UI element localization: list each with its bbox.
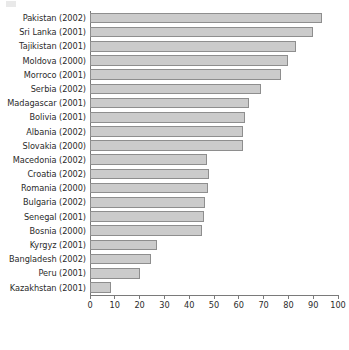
bar-row: Serbia (2002) [0, 82, 349, 96]
bar [90, 84, 261, 95]
bar-row: Pakistan (2002) [0, 11, 349, 25]
bar-track [90, 266, 349, 280]
x-axis-tick-label: 10 [110, 300, 120, 310]
x-axis-tick [114, 295, 115, 299]
bar-track [90, 54, 349, 68]
crop-artifact [6, 1, 16, 7]
bar-track [90, 238, 349, 252]
bar [90, 268, 140, 279]
bar [90, 240, 157, 251]
x-axis-tick-label: 30 [159, 300, 169, 310]
bar [90, 55, 288, 66]
bar-track [90, 139, 349, 153]
category-label: Albania (2002) [0, 125, 86, 139]
x-axis-tick [263, 295, 264, 299]
bar-row: Romania (2000) [0, 181, 349, 195]
x-axis-tick-label: 90 [308, 300, 318, 310]
bar [90, 13, 322, 24]
bar-track [90, 110, 349, 124]
bar-row: Kazakhstan (2001) [0, 281, 349, 295]
bar [90, 98, 249, 109]
x-axis-tick [139, 295, 140, 299]
x-axis-tick [90, 295, 91, 299]
plot-area: Pakistan (2002)Sri Lanka (2001)Tajikista… [0, 11, 349, 295]
x-axis-tick-label: 60 [234, 300, 244, 310]
bar-row: Bosnia (2000) [0, 224, 349, 238]
category-label: Peru (2001) [0, 266, 86, 280]
bar-track [90, 210, 349, 224]
category-label: Tajikistan (2001) [0, 39, 86, 53]
x-axis-tick [189, 295, 190, 299]
bar [90, 282, 111, 293]
category-label: Bangladesh (2002) [0, 252, 86, 266]
bar [90, 225, 202, 236]
bar-track [90, 125, 349, 139]
bar-row: Senegal (2001) [0, 210, 349, 224]
bar [90, 112, 245, 123]
category-label: Serbia (2002) [0, 82, 86, 96]
x-axis-tick [338, 295, 339, 299]
x-axis-tick-label: 40 [184, 300, 194, 310]
bar-row: Madagascar (2001) [0, 96, 349, 110]
bar-chart: Pakistan (2002)Sri Lanka (2001)Tajikista… [0, 0, 349, 350]
bar-row: Tajikistan (2001) [0, 39, 349, 53]
bar [90, 27, 313, 38]
category-label: Kazakhstan (2001) [0, 281, 86, 295]
category-label: Bosnia (2000) [0, 224, 86, 238]
x-axis-tick [214, 295, 215, 299]
x-axis-tick [164, 295, 165, 299]
x-axis-tick-label: 0 [87, 300, 92, 310]
category-label: Morroco (2001) [0, 68, 86, 82]
bar-row: Morroco (2001) [0, 68, 349, 82]
bar-track [90, 167, 349, 181]
bar [90, 41, 296, 52]
bar-row: Moldova (2000) [0, 54, 349, 68]
bar-row: Bangladesh (2002) [0, 252, 349, 266]
bar-row: Sri Lanka (2001) [0, 25, 349, 39]
bar [90, 254, 151, 265]
category-label: Macedonia (2002) [0, 153, 86, 167]
x-axis-tick-label: 80 [283, 300, 293, 310]
bar-track [90, 181, 349, 195]
bar-row: Peru (2001) [0, 266, 349, 280]
bar-row: Albania (2002) [0, 125, 349, 139]
bar [90, 197, 205, 208]
bar-track [90, 39, 349, 53]
category-label: Pakistan (2002) [0, 11, 86, 25]
x-axis-tick [313, 295, 314, 299]
bar [90, 211, 204, 222]
bar [90, 140, 243, 151]
bar-row: Macedonia (2002) [0, 153, 349, 167]
category-label: Romania (2000) [0, 181, 86, 195]
bar-row: Kyrgyz (2001) [0, 238, 349, 252]
category-label: Bolivia (2001) [0, 110, 86, 124]
x-axis-tick [238, 295, 239, 299]
x-axis-tick-label: 20 [134, 300, 144, 310]
category-label: Sri Lanka (2001) [0, 25, 86, 39]
bar-row: Croatia (2002) [0, 167, 349, 181]
category-label: Bulgaria (2002) [0, 195, 86, 209]
category-label: Moldova (2000) [0, 54, 86, 68]
bar-row: Bolivia (2001) [0, 110, 349, 124]
bar-track [90, 252, 349, 266]
category-label: Senegal (2001) [0, 210, 86, 224]
category-label: Madagascar (2001) [0, 96, 86, 110]
category-label: Slovakia (2000) [0, 139, 86, 153]
bar-track [90, 96, 349, 110]
bar [90, 154, 207, 165]
bar-track [90, 195, 349, 209]
bar-track [90, 68, 349, 82]
bar-track [90, 224, 349, 238]
x-axis-tick [288, 295, 289, 299]
bar-track [90, 25, 349, 39]
category-label: Kyrgyz (2001) [0, 238, 86, 252]
x-axis-tick-label: 70 [258, 300, 268, 310]
bar-row: Slovakia (2000) [0, 139, 349, 153]
bar [90, 69, 281, 80]
x-axis-tick-label: 100 [330, 300, 346, 310]
bar-track [90, 82, 349, 96]
bar [90, 126, 243, 137]
bar-row: Bulgaria (2002) [0, 195, 349, 209]
bar-track [90, 11, 349, 25]
bar-track [90, 281, 349, 295]
